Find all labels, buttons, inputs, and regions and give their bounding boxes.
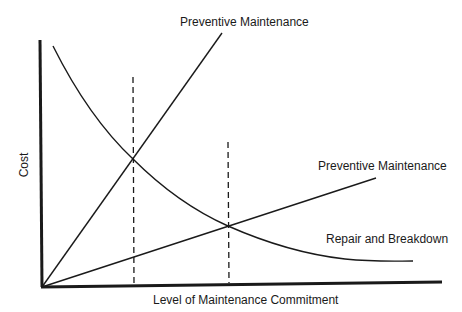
- y-axis: [40, 40, 42, 287]
- x-axis-label: Level of Maintenance Commitment: [153, 293, 338, 307]
- repair-and-breakdown-label: Repair and Breakdown: [326, 232, 448, 246]
- reference-line-1: [133, 77, 134, 285]
- repair-and-breakdown-curve: [53, 46, 413, 261]
- reference-line-2: [228, 142, 229, 283]
- y-axis-label: Cost: [17, 153, 31, 178]
- x-axis: [41, 282, 442, 287]
- preventive-maintenance-steep-line: [42, 33, 222, 287]
- chart-canvas: [0, 0, 462, 312]
- preventive-maintenance-shallow-label: Preventive Maintenance: [318, 159, 447, 173]
- preventive-maintenance-steep-label: Preventive Maintenance: [180, 15, 309, 29]
